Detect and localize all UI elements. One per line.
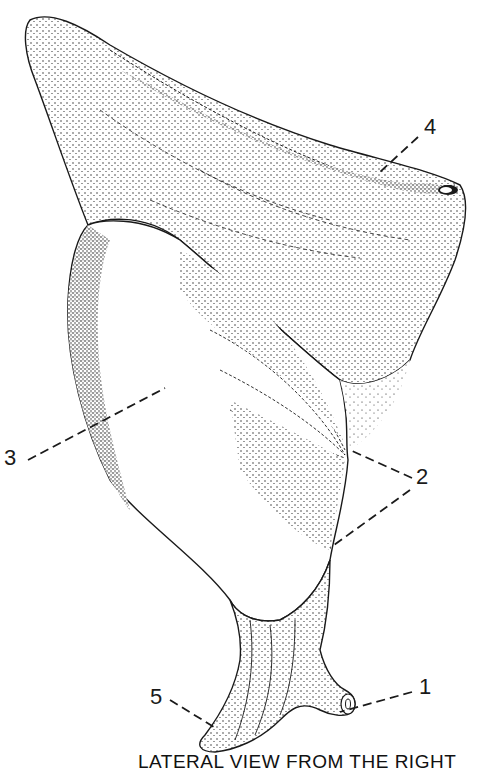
callout-label-3: 3 xyxy=(4,447,16,469)
callout-label-1: 1 xyxy=(419,676,431,698)
figure-caption: LATERAL VIEW FROM THE RIGHT xyxy=(138,752,456,771)
leader-line-5 xyxy=(170,700,214,727)
leader-line-2a xyxy=(350,450,412,478)
callout-label-2: 2 xyxy=(416,466,428,488)
callout-label-4: 4 xyxy=(424,116,436,138)
anatomical-diagram xyxy=(0,0,489,774)
callout-label-5: 5 xyxy=(150,686,162,708)
